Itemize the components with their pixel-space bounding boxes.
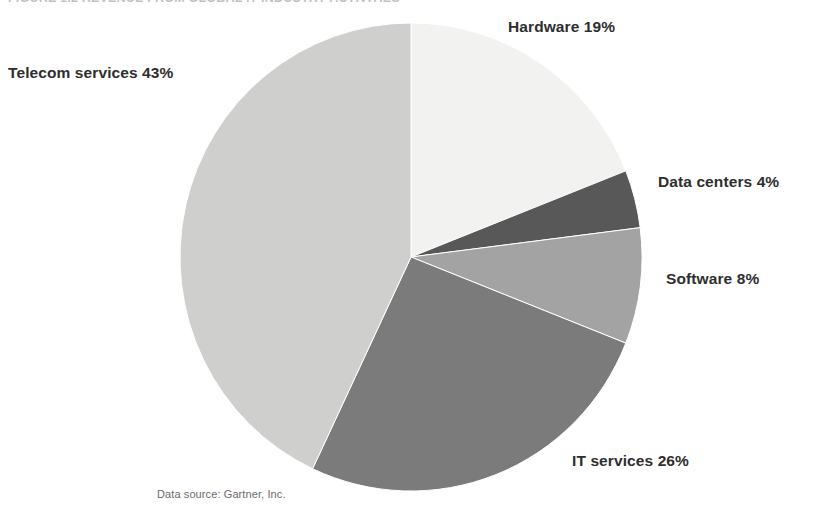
slice-label-hardware: Hardware 19% xyxy=(508,18,615,36)
figure-container: FIGURE 1.2 REVENUE FROM GLOBAL IT INDUST… xyxy=(0,0,819,515)
figure-title: FIGURE 1.2 REVENUE FROM GLOBAL IT INDUST… xyxy=(8,0,528,5)
pie-chart-svg xyxy=(178,22,644,492)
pie-slice-group xyxy=(180,23,642,491)
data-source-note: Data source: Gartner, Inc. xyxy=(157,488,286,500)
slice-label-data-centers: Data centers 4% xyxy=(658,173,779,191)
slice-label-it-services: IT services 26% xyxy=(572,452,689,470)
pie-chart xyxy=(178,22,644,492)
slice-label-software: Software 8% xyxy=(666,270,759,288)
slice-label-telecom-services: Telecom services 43% xyxy=(8,64,173,82)
